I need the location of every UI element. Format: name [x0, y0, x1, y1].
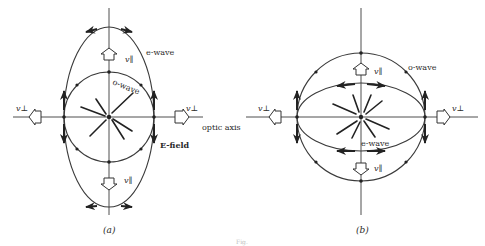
v-parallel-up-arrow-icon [101, 48, 117, 60]
panel-a-label: (a) [103, 225, 116, 235]
panel-b: o-wave e-wave v∥ v∥ v⊥ v⊥ (b) [246, 8, 478, 235]
e-wave-label: e-wave [146, 48, 175, 57]
optic-axis-label: optic axis [202, 123, 241, 132]
o-wave-label: o-wave [111, 78, 141, 97]
v-parallel-top-label: v∥ [125, 55, 133, 64]
v-perp-left-arrow-icon [29, 109, 41, 125]
birefringence-diagram: e-wave o-wave v∥ v∥ v⊥ v⊥ optic axis E-f… [0, 0, 485, 246]
v-parallel-down-arrow-icon [353, 163, 369, 175]
v-perp-left-label: v⊥ [258, 104, 270, 113]
v-perp-right-label: v⊥ [452, 104, 464, 113]
v-perp-left-label: v⊥ [16, 104, 28, 113]
v-perp-right-arrow-icon [437, 109, 450, 125]
panel-b-label: (b) [356, 225, 369, 235]
v-perp-left-arrow-icon [269, 109, 281, 125]
v-parallel-bottom-label: v∥ [374, 164, 382, 173]
o-wave-label: o-wave [408, 63, 437, 72]
v-parallel-down-arrow-icon [101, 178, 117, 190]
v-parallel-bottom-label: v∥ [124, 176, 132, 185]
wave-rays [81, 93, 133, 139]
v-perp-right-label: v⊥ [186, 104, 198, 113]
panel-a: e-wave o-wave v∥ v∥ v⊥ v⊥ optic axis E-f… [13, 8, 241, 235]
velocity-arrows [269, 63, 450, 175]
e-wave-label: e-wave [361, 139, 390, 148]
v-parallel-top-label: v∥ [374, 67, 382, 76]
v-parallel-up-arrow-icon [353, 63, 369, 75]
e-field-label: E-field [160, 140, 190, 150]
figure-caption: Fig. [236, 238, 248, 246]
